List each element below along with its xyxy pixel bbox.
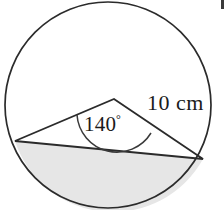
geometry-figure: 10 cm 140° — [0, 0, 224, 210]
radius-length-label: 10 cm — [147, 92, 204, 114]
scan-edge-artifact — [221, 0, 224, 9]
degree-symbol-icon: ° — [116, 112, 121, 126]
apex-angle-value: 140 — [84, 112, 116, 136]
apex-angle-label: 140° — [84, 113, 121, 135]
